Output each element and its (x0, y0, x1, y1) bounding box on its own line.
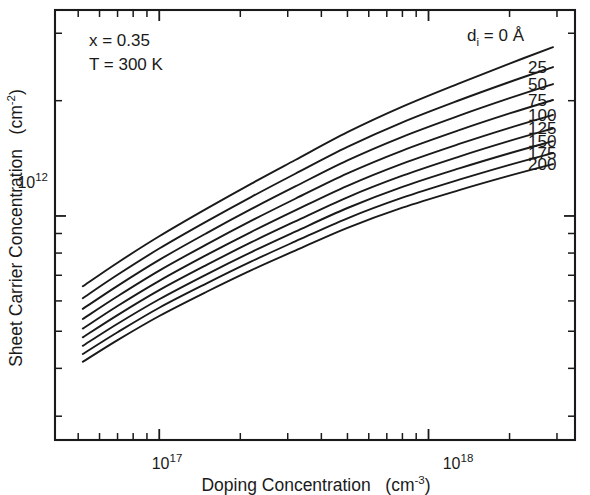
series-label-0: di = 0 Å (467, 26, 525, 48)
curve-spacer-0 (83, 47, 553, 286)
y-axis-title: Sheet Carrier Concentration (cm-2) (5, 89, 26, 367)
chart-canvas: 1017 1018 1012 Doping Concentration (cm-… (0, 0, 590, 495)
curve-spacer-75 (83, 100, 553, 319)
curve-spacer-125 (83, 128, 553, 337)
x-axis-title: Doping Concentration (cm-3) (201, 474, 430, 495)
x-tick-label-1e18: 1018 (443, 452, 474, 472)
annotation-composition: x = 0.35 (89, 31, 150, 50)
x-tick-label-1e17: 1017 (152, 452, 183, 472)
series-label-200: 200 (528, 155, 556, 174)
figure-container: 1017 1018 1012 Doping Concentration (cm-… (0, 0, 590, 495)
axis-ticks (55, 10, 575, 440)
data-curves (83, 47, 553, 362)
plot-frame (55, 10, 575, 440)
annotation-temperature: T = 300 K (89, 55, 164, 74)
series-labels: 255075100125150175200 (528, 58, 556, 174)
